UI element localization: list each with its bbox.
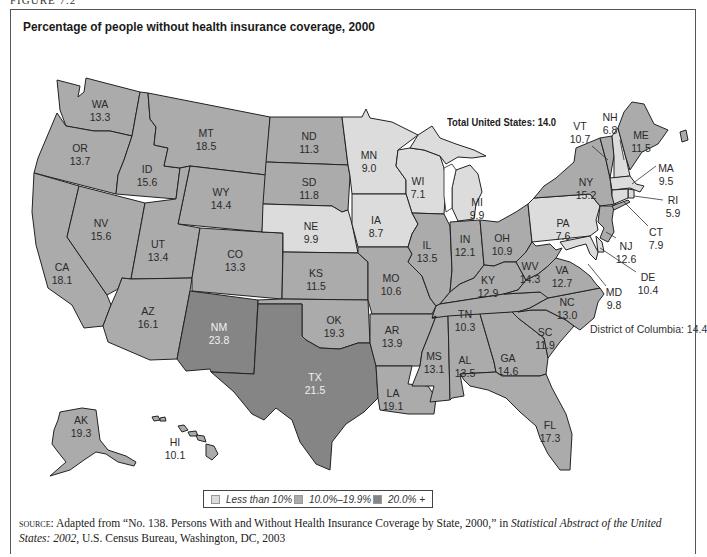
label-MO: MO10.6: [381, 272, 402, 297]
label-MI: MI9.9: [470, 196, 485, 221]
state-IA[interactable]: [352, 194, 418, 247]
legend-swatch-high: [373, 495, 382, 504]
legend-label-low: Less than 10%: [226, 494, 292, 505]
source-text-2: U.S. Census Bureau, Washington, DC, 2003: [79, 532, 285, 544]
legend: Less than 10% 10.0%–19.9% 20.0% +: [203, 490, 433, 508]
legend-item-low: Less than 10%: [211, 494, 292, 505]
label-ME: ME11.5: [631, 129, 651, 154]
state-HI-6[interactable]: [206, 444, 218, 460]
label-AR: AR13.9: [382, 324, 403, 349]
leader-ct: [622, 200, 648, 226]
label-NM: NM23.8: [209, 321, 230, 346]
label-NC: NC13.0: [557, 296, 578, 321]
label-OK: OK19.3: [324, 314, 345, 339]
state-HI-1[interactable]: [152, 416, 160, 421]
label-CO: CO13.3: [225, 248, 246, 273]
label-WA: WA13.3: [90, 98, 111, 123]
label-RI: RI5.9: [666, 194, 681, 219]
state-HI-5[interactable]: [196, 435, 206, 442]
label-ND: ND11.3: [299, 130, 319, 155]
label-DE: DE10.4: [638, 271, 659, 296]
state-HI-2[interactable]: [160, 417, 166, 421]
leader-ri: [634, 196, 663, 200]
label-GA: GA14.6: [498, 352, 519, 377]
label-MN: MN9.0: [361, 149, 377, 174]
state-NJ[interactable]: [598, 206, 614, 242]
label-NE: NE9.9: [304, 220, 319, 245]
label-CT: CT7.9: [649, 226, 664, 251]
state-AK[interactable]: [50, 408, 136, 476]
source-text-1: Adapted from “No. 138. Persons With and …: [54, 517, 511, 529]
label-VT: VT10.7: [570, 120, 591, 145]
label-HI: HI10.1: [165, 436, 186, 461]
label-KS: KS11.5: [306, 267, 326, 292]
label-MS: MS13.1: [424, 350, 445, 375]
label-NY: NY15.2: [576, 176, 597, 201]
legend-swatch-mid: [294, 495, 303, 504]
label-WI: WI7.1: [411, 175, 426, 200]
national-total-note: Total United States: 14.0: [447, 116, 556, 128]
legend-label-high: 20.0% +: [388, 494, 425, 505]
label-MD: MD9.8: [606, 286, 623, 311]
legend-label-mid: 10.0%–19.9%: [309, 494, 371, 505]
label-MA: MA9.5: [658, 162, 674, 187]
legend-item-mid: 10.0%–19.9%: [294, 494, 371, 505]
island-maine: [680, 130, 688, 142]
state-HI-3[interactable]: [178, 425, 188, 432]
label-PA: PA7.6: [556, 217, 571, 242]
leader-ma: [632, 166, 656, 184]
label-OR: OR13.7: [70, 142, 91, 167]
label-SC: SC11.9: [535, 326, 555, 351]
dc-note: District of Columbia: 14.4: [590, 323, 707, 335]
state-RI[interactable]: [628, 189, 634, 198]
legend-item-high: 20.0% +: [373, 494, 425, 505]
label-NJ: NJ12.6: [616, 240, 637, 265]
legend-swatch-low: [211, 495, 220, 504]
label-OH: OH10.9: [492, 232, 513, 257]
label-CA: CA18.1: [52, 261, 73, 286]
source-prefix: SOURCE:: [19, 517, 54, 529]
label-SD: SD11.8: [299, 176, 319, 201]
label-WV: WV14.3: [520, 260, 541, 285]
state-KS[interactable]: [282, 252, 368, 300]
label-WY: WY14.4: [211, 186, 232, 211]
label-NH: NH6.8: [602, 111, 617, 136]
label-MT: MT18.5: [196, 127, 217, 152]
source-note: SOURCE: Adapted from “No. 138. Persons W…: [19, 516, 689, 545]
label-NV: NV15.6: [91, 217, 112, 242]
